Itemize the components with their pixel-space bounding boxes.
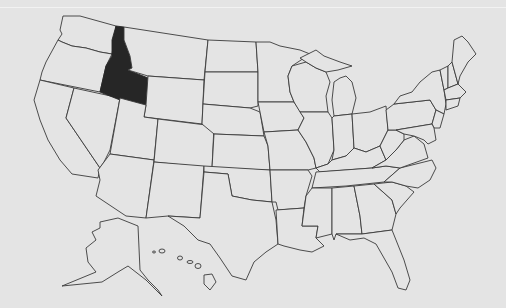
state-florida[interactable]: [336, 230, 410, 290]
state-montana[interactable]: [124, 27, 208, 80]
state-south-dakota[interactable]: [203, 72, 258, 108]
state-alaska[interactable]: [62, 218, 162, 296]
state-hawaii[interactable]: [153, 249, 217, 290]
state-new-mexico[interactable]: [146, 162, 204, 218]
state-kansas[interactable]: [212, 134, 270, 170]
state-nebraska[interactable]: [202, 104, 264, 136]
state-north-dakota[interactable]: [205, 40, 258, 72]
state-maine[interactable]: [452, 36, 476, 84]
state-connecticut[interactable]: [446, 98, 460, 110]
state-arizona[interactable]: [96, 154, 154, 218]
us-state-map: [0, 0, 506, 308]
state-wyoming[interactable]: [144, 76, 204, 124]
